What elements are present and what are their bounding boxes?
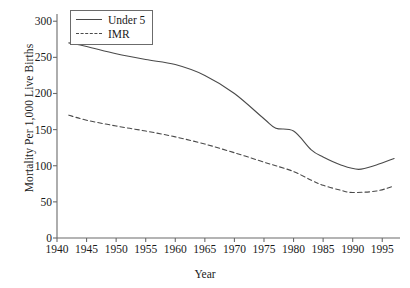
legend-item-under-5: Under 5 [76, 13, 145, 27]
legend-label: Under 5 [108, 14, 145, 26]
x-tick-label: 1995 [362, 243, 402, 255]
y-axis-title: Mortality Per 1,000 Live Births [23, 18, 35, 218]
mortality-line-chart: 050100150200250300 194019451950195519601… [0, 0, 410, 288]
chart-legend: Under 5 IMR [70, 10, 153, 45]
legend-label: IMR [108, 28, 130, 40]
legend-item-imr: IMR [76, 27, 145, 41]
x-axis-title: Year [0, 268, 410, 280]
x-tick-labels: 1940194519501955196019651970197519801985… [0, 0, 410, 288]
